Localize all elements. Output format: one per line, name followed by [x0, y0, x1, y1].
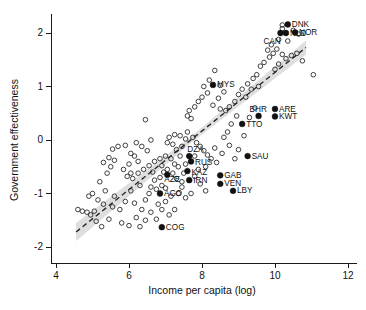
y-tick-label: -2 — [34, 241, 43, 252]
data-point-open — [80, 209, 85, 214]
data-point-open — [183, 137, 188, 142]
point-label-dza: DZA — [187, 145, 204, 154]
data-point-open — [242, 133, 247, 138]
data-point-mys — [210, 82, 216, 88]
data-point-open — [123, 199, 128, 204]
data-point-open — [138, 224, 143, 229]
point-label-sau: SAU — [252, 152, 269, 161]
data-point-open — [127, 223, 132, 228]
confidence-band — [76, 40, 306, 241]
point-label-mys: MYS — [217, 80, 235, 89]
data-point-open — [227, 143, 232, 148]
data-point-open — [136, 159, 141, 164]
data-point-open — [275, 47, 280, 52]
data-point-open — [236, 147, 241, 152]
x-tick-label: 4 — [53, 270, 59, 281]
data-point-open — [285, 39, 290, 44]
data-point-open — [234, 114, 239, 119]
data-point-open — [134, 140, 139, 145]
chart-svg: DNKNORNLDCANMYSAREBHRKWTTTOSAUDZARUSKAZG… — [0, 0, 366, 310]
data-point-open — [258, 64, 263, 69]
data-point-open — [172, 207, 177, 212]
data-point-open — [251, 76, 256, 81]
data-point-open — [143, 218, 148, 223]
data-point-open — [216, 96, 221, 101]
data-point-open — [167, 213, 172, 218]
data-point-open — [178, 154, 183, 159]
data-point-open — [207, 78, 212, 83]
data-point-open — [119, 221, 124, 226]
data-point-open — [165, 140, 170, 145]
data-point-open — [171, 142, 176, 147]
data-point-open — [149, 185, 154, 190]
point-label-lby: LBY — [237, 186, 253, 195]
data-point-open — [212, 68, 217, 73]
data-point-can — [278, 30, 284, 36]
point-label-can: CAN — [263, 37, 280, 46]
x-tick-label: 8 — [199, 270, 205, 281]
data-point-open — [167, 135, 172, 140]
data-point-open — [218, 107, 223, 112]
data-point-open — [192, 105, 197, 110]
point-label-rus: RUS — [195, 158, 213, 167]
data-point-open — [105, 171, 110, 176]
data-point-open — [265, 48, 270, 53]
data-point-open — [180, 179, 185, 184]
data-point-open — [107, 217, 112, 222]
data-point-open — [203, 189, 208, 194]
data-point-open — [132, 201, 137, 206]
data-point-open — [130, 176, 135, 181]
data-point-open — [118, 207, 123, 212]
data-point-open — [149, 210, 154, 215]
data-point-open — [101, 160, 106, 165]
data-point-open — [116, 144, 121, 149]
data-point-open — [183, 195, 188, 200]
data-point-tto — [239, 121, 245, 127]
data-point-open — [149, 138, 154, 143]
data-point-rus — [188, 159, 194, 165]
y-tick-label: 2 — [37, 27, 43, 38]
data-point-open — [233, 156, 238, 161]
data-point-gab — [217, 172, 223, 178]
data-point-open — [141, 167, 146, 172]
data-point-cog — [159, 224, 165, 230]
data-point-open — [107, 155, 112, 160]
data-point-open — [112, 158, 117, 163]
data-point-open — [139, 207, 144, 212]
data-point-open — [143, 198, 148, 203]
data-point-open — [240, 87, 245, 92]
data-point-open — [121, 167, 126, 172]
y-tick-label: 1 — [37, 81, 43, 92]
data-point-nld — [283, 30, 289, 36]
data-point-dnk — [285, 22, 291, 28]
data-point-open — [132, 154, 137, 159]
data-point-open — [189, 191, 194, 196]
data-point-open — [220, 151, 225, 156]
point-label-ago: AGO — [164, 189, 182, 198]
data-point-open — [214, 160, 219, 165]
y-tick-label: 0 — [37, 134, 43, 145]
data-point-open — [147, 163, 152, 168]
data-point-open — [123, 143, 128, 148]
data-point-open — [211, 103, 216, 108]
data-point-open — [262, 60, 267, 65]
data-point-open — [178, 133, 183, 138]
data-point-open — [98, 179, 103, 184]
point-label-irn: IRN — [193, 176, 207, 185]
data-point-open — [205, 153, 210, 158]
data-point-ven — [217, 181, 223, 187]
data-point-open — [271, 51, 276, 56]
data-point-open — [225, 130, 230, 135]
data-point-open — [127, 162, 132, 167]
data-point-open — [96, 198, 101, 203]
data-point-irn — [186, 177, 192, 183]
point-label-cog: COG — [166, 223, 185, 232]
data-point-open — [200, 95, 205, 100]
data-point-open — [134, 215, 139, 220]
data-point-open — [160, 207, 165, 212]
data-point-open — [99, 224, 104, 229]
point-label-aze: AZE — [164, 175, 180, 184]
data-point-open — [152, 159, 157, 164]
data-point-open — [152, 178, 157, 183]
point-label-tto: TTO — [246, 120, 262, 129]
